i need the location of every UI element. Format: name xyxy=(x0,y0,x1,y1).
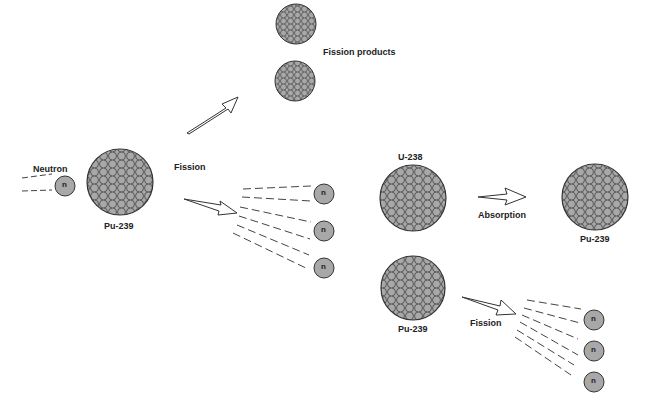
neutron-symbol: n xyxy=(321,262,326,271)
fission-products-label: Fission products xyxy=(323,47,396,57)
fission-product-top xyxy=(276,4,316,44)
fission-left-label: Fission xyxy=(174,162,206,172)
neutron-symbol: n xyxy=(62,180,67,189)
neutron-symbol: n xyxy=(591,314,596,323)
pu239-nucleus-left xyxy=(87,149,153,215)
pu239-right-label: Pu-239 xyxy=(580,234,610,244)
u238-label: U-238 xyxy=(398,152,423,162)
arrow-to-neutrons-icon xyxy=(184,199,237,215)
pu239-nucleus-bottom xyxy=(381,256,445,320)
arrow-fission-bottom-icon xyxy=(462,297,516,315)
pu239-left-label: Pu-239 xyxy=(104,221,134,231)
emitted-neutrons-bottom xyxy=(515,300,581,375)
fission-product-bottom xyxy=(275,61,315,101)
neutron-symbol: n xyxy=(591,376,596,385)
neutron-symbol: n xyxy=(321,188,326,197)
neutron-symbol: n xyxy=(321,225,326,234)
neutron-label: Neutron xyxy=(33,164,68,174)
fission-bottom-label: Fission xyxy=(470,318,502,328)
arrow-to-products-icon xyxy=(187,97,238,134)
incoming-neutron xyxy=(22,174,75,196)
pu239-nucleus-right xyxy=(562,164,628,230)
absorption-arrow-icon xyxy=(478,188,526,205)
pu239-bottom-label: Pu-239 xyxy=(398,324,428,334)
absorption-label: Absorption xyxy=(478,210,526,220)
emitted-neutrons-left xyxy=(233,186,311,269)
neutron-symbol: n xyxy=(591,345,596,354)
u238-nucleus xyxy=(380,165,446,231)
diagram-canvas xyxy=(0,0,646,413)
